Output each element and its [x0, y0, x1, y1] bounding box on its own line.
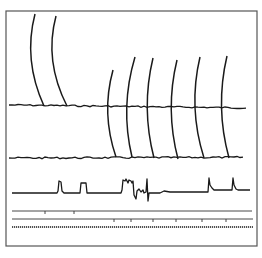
trace-2-arc-1	[108, 70, 116, 157]
traces-group	[9, 14, 250, 201]
trace-2-arc-3	[147, 58, 154, 158]
trace-1-arc-2	[52, 16, 67, 106]
trace-1-arc-1	[31, 14, 44, 106]
recording-figure	[0, 0, 262, 258]
recording-chart	[0, 0, 262, 258]
markers-group	[12, 211, 253, 227]
trace-3-line	[12, 178, 250, 201]
trace-2-line	[9, 157, 243, 159]
trace-2-arc-4	[171, 60, 178, 159]
